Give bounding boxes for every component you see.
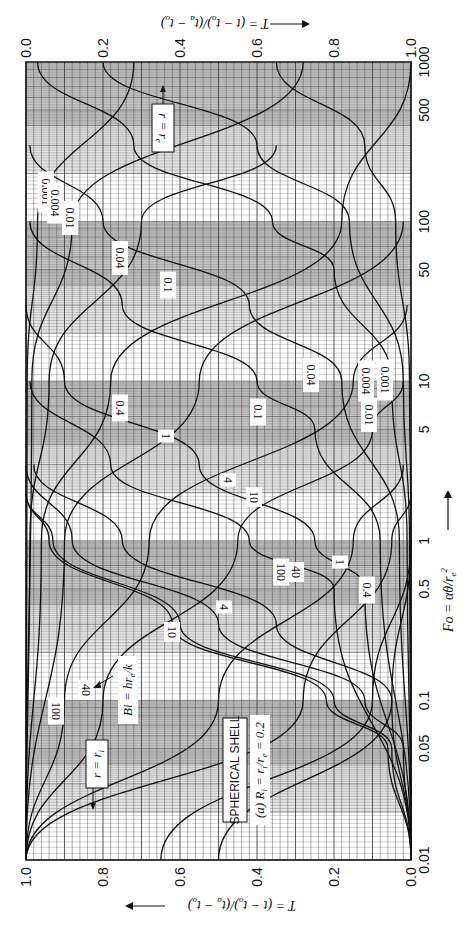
curve-label: 40 [78, 680, 94, 700]
bottom-tick: 0.2 [326, 867, 342, 887]
top-tick: 0.2 [95, 38, 111, 58]
top-tick: 0.6 [249, 38, 265, 58]
svg-text:40: 40 [79, 684, 93, 696]
curve-label: 0.04 [303, 358, 319, 392]
top-tick: 0.4 [172, 38, 188, 58]
bottom-tick: 0.8 [95, 867, 111, 887]
r-ri-text: r = ri [89, 750, 106, 778]
bottom-axis-title-text: T = (t − to)/(ta − to) [187, 896, 296, 913]
svg-text:0.05: 0.05 [416, 735, 432, 762]
svg-text:0.2: 0.2 [95, 38, 111, 58]
curve-label: 0.01 [62, 201, 78, 235]
fo-tick: 100 [416, 210, 432, 234]
fo-axis-title: Fo = αθ/re2 [439, 567, 458, 633]
svg-text:100: 100 [49, 702, 63, 720]
fo-axis-arrow [444, 490, 452, 530]
fo-tick: 10 [416, 373, 432, 389]
svg-text:0.1: 0.1 [161, 278, 175, 293]
curve-label: 10 [246, 487, 262, 507]
svg-text:0.4: 0.4 [360, 583, 374, 598]
svg-text:0.4: 0.4 [172, 38, 188, 58]
fo-tick: 0.1 [416, 690, 432, 710]
title-text: SPHERICAL SHELL [228, 715, 242, 824]
bottom-axis-arrow [125, 902, 165, 910]
svg-text:1.0: 1.0 [18, 867, 34, 887]
subtitle: (a) Ri = ri/re = 0.2 [250, 715, 270, 825]
top-tick: 0.0 [18, 38, 34, 58]
fo-tick: 1 [416, 537, 432, 545]
svg-text:10: 10 [247, 491, 261, 503]
svg-text:0.004: 0.004 [48, 190, 62, 217]
bi-label: Bi = hre/k [118, 656, 138, 724]
curve-label: 0.004 [358, 361, 374, 402]
r-ri-box: r = ri [86, 740, 108, 788]
svg-text:0.0: 0.0 [403, 867, 419, 887]
top-tick: 0.8 [326, 38, 342, 58]
svg-text:0.04: 0.04 [304, 365, 318, 386]
curve-label: 1 [332, 556, 348, 569]
fo-tick: 50 [416, 262, 432, 278]
curve-label: 10 [164, 622, 180, 642]
svg-text:0.01: 0.01 [63, 208, 77, 229]
curve-label: 4 [220, 474, 236, 487]
r-re-text: r = re [154, 113, 171, 142]
chart: 0.0010.0040.010.040.10.41410401000.0010.… [0, 0, 467, 925]
curve-label: 0.4 [359, 577, 375, 604]
top-axis-arrow [270, 20, 310, 28]
bottom-tick: 0.6 [172, 867, 188, 887]
bottom-tick: 0.4 [249, 867, 265, 887]
curve-label: 0.004 [47, 183, 63, 224]
svg-text:5: 5 [416, 425, 432, 433]
r-re-box: r = re [152, 104, 174, 152]
curve-label: 100 [273, 559, 289, 586]
curve-label: 40 [288, 562, 304, 582]
svg-text:0.4: 0.4 [249, 867, 265, 887]
svg-text:0.0: 0.0 [18, 38, 34, 58]
svg-text:1.0: 1.0 [403, 38, 419, 58]
bi-label-text: Bi = hre/k [120, 664, 137, 716]
svg-text:0.8: 0.8 [326, 38, 342, 58]
svg-text:10: 10 [416, 373, 432, 389]
fo-tick: 0.05 [416, 735, 432, 762]
fo-axis-title-text: Fo = αθ/re2 [439, 567, 458, 633]
svg-text:1: 1 [333, 559, 347, 565]
curve-label: 4 [216, 601, 232, 614]
curve-label: 0.1 [250, 399, 266, 426]
subtitle-text: (a) Ri = ri/re = 0.2 [252, 722, 269, 818]
curve-label: 100 [48, 698, 64, 725]
svg-text:0.6: 0.6 [172, 867, 188, 887]
svg-text:4: 4 [221, 477, 235, 483]
bottom-tick: 1.0 [18, 867, 34, 887]
top-axis-title: T = (t − to)/(ta − to) [160, 14, 269, 31]
curve-label: 0.04 [112, 241, 128, 275]
svg-text:50: 50 [416, 262, 432, 278]
svg-text:0.004: 0.004 [359, 368, 373, 395]
svg-text:100: 100 [274, 563, 288, 581]
top-tick: 1.0 [403, 38, 419, 58]
svg-text:500: 500 [416, 98, 432, 122]
svg-text:0.2: 0.2 [326, 867, 342, 887]
curve-label: 0.001 [377, 360, 393, 401]
svg-text:0.1: 0.1 [251, 405, 265, 420]
svg-text:4: 4 [217, 604, 231, 610]
svg-text:1: 1 [159, 433, 173, 439]
curve-label: 0.01 [361, 398, 377, 432]
svg-text:0.8: 0.8 [95, 867, 111, 887]
fo-tick: 0.5 [416, 579, 432, 599]
svg-text:40: 40 [289, 566, 303, 578]
fo-tick: 500 [416, 98, 432, 122]
svg-text:0.4: 0.4 [113, 401, 127, 416]
svg-text:0.01: 0.01 [362, 405, 376, 426]
curve-label: 0.1 [160, 272, 176, 299]
top-axis-title-text: T = (t − to)/(ta − to) [160, 14, 269, 31]
curve-label: 1 [158, 430, 174, 443]
svg-text:10: 10 [165, 626, 179, 638]
svg-text:0.04: 0.04 [113, 248, 127, 269]
svg-text:0.6: 0.6 [249, 38, 265, 58]
fo-tick: 5 [416, 425, 432, 433]
svg-text:0.001: 0.001 [378, 367, 392, 394]
svg-text:0.1: 0.1 [416, 690, 432, 710]
svg-text:100: 100 [416, 210, 432, 234]
curve-label: 0.4 [112, 395, 128, 422]
bottom-tick: 0.0 [403, 867, 419, 887]
